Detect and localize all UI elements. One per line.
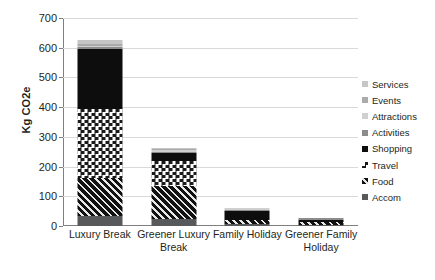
legend-item-attractions[interactable]: Attractions [362,108,435,124]
legend-item-shopping[interactable]: Shopping [362,141,435,157]
bar-segment-food [77,178,122,215]
x-axis-label: Family Holiday [211,228,285,241]
legend-item-accom[interactable]: Accom [362,189,435,205]
bar-slot [284,18,358,226]
y-tick-label: 400 [23,101,57,113]
stacked-bar[interactable] [225,208,270,226]
legend-swatch-icon [362,130,368,136]
legend-label: Accom [372,192,401,203]
y-tick-label: 500 [23,71,57,83]
stacked-bar[interactable] [299,218,344,226]
legend-swatch-icon [362,194,368,200]
legend-swatch-icon [362,178,368,184]
bar-slot [211,18,285,226]
bar-segment-food [151,186,196,219]
legend-label: Events [372,95,401,106]
bar-segment-accom [299,225,344,226]
bar-group [63,18,358,226]
legend-item-services[interactable]: Services [362,76,435,92]
x-axis-labels: Luxury BreakGreener Luxury BreakFamily H… [63,228,358,278]
legend-swatch-icon [362,146,368,152]
bar-segment-shopping [151,153,196,160]
stacked-bar-chart: Kg CO2e 0100200300400500600700 Luxury Br… [0,0,435,280]
legend-label: Travel [372,160,398,171]
bar-segment-accom [151,219,196,226]
bar-segment-accom [77,216,122,226]
plot-area: 0100200300400500600700 [63,18,358,226]
bar-segment-shopping [77,49,122,108]
y-tick-label: 0 [23,220,57,232]
y-tick-label: 200 [23,161,57,173]
y-tick-label: 300 [23,131,57,143]
legend-swatch-icon [362,97,368,103]
bar-slot [137,18,211,226]
y-tick-label: 700 [23,12,57,24]
bar-segment-accom [225,224,270,226]
y-tick-label: 100 [23,190,57,202]
y-tick-label: 600 [23,42,57,54]
stacked-bar[interactable] [77,40,122,226]
chart-legend: ServicesEventsAttractionsActivitiesShopp… [362,76,435,206]
legend-item-food[interactable]: Food [362,173,435,189]
bar-slot [63,18,137,226]
legend-swatch-icon [362,81,368,87]
x-axis-label: Greener Luxury Break [137,228,211,253]
bar-segment-travel [151,161,196,186]
legend-item-events[interactable]: Events [362,92,435,108]
y-tick-mark [59,226,63,227]
legend-label: Food [372,176,394,187]
legend-item-activities[interactable]: Activities [362,125,435,141]
legend-label: Shopping [372,143,412,154]
legend-swatch-icon [362,162,368,168]
bar-segment-travel [77,109,122,179]
legend-label: Services [372,79,408,90]
legend-label: Activities [372,127,409,138]
legend-swatch-icon [362,113,368,119]
x-axis-label: Luxury Break [63,228,137,241]
stacked-bar[interactable] [151,148,196,226]
bar-segment-shopping [225,211,270,220]
legend-item-travel[interactable]: Travel [362,157,435,173]
x-axis-label: Greener Family Holiday [284,228,358,253]
legend-label: Attractions [372,111,417,122]
